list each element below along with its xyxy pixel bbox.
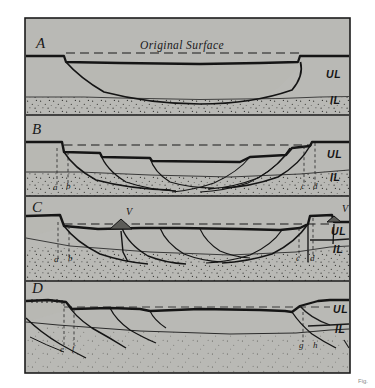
point-label-b-d: d [313, 181, 318, 191]
point-label-b-a: a [53, 182, 58, 192]
point-label-d-h: h [313, 340, 318, 350]
unit-label-ul-b: UL [327, 148, 342, 160]
unit-label-il-d: IL [335, 323, 346, 335]
cross-section-drawing: Original Surface A B C D UL IL UL IL UL … [0, 0, 375, 388]
panel-b-left-horst [26, 147, 68, 172]
panel-a-il-layer [26, 97, 349, 115]
panel-label-a: A [35, 35, 46, 51]
panel-label-d: D [31, 280, 43, 296]
point-label-c-d: d [310, 253, 315, 263]
point-label-d-g: g [299, 340, 304, 350]
figure-plate: Original Surface A B C D UL IL UL IL UL … [0, 0, 375, 388]
unit-label-il-a: IL [330, 94, 341, 106]
point-label-c-b: b [68, 253, 73, 263]
panel-label-c: C [32, 199, 43, 215]
point-label-c-a: a [54, 254, 59, 264]
point-label-b-b: b [66, 181, 71, 191]
point-label-b-c: c [301, 181, 305, 191]
unit-label-ul-d: UL [333, 303, 348, 315]
unit-label-ul-c: UL [331, 225, 346, 237]
unit-label-il-c: IL [333, 243, 344, 255]
panel-label-b: B [32, 121, 41, 137]
unit-label-ul-a: UL [326, 68, 341, 80]
caption-fragment: Fig. [358, 378, 368, 384]
original-surface-caption: Original Surface [140, 39, 224, 52]
point-label-d-e: e [60, 344, 64, 354]
point-label-c-c: c [296, 253, 300, 263]
unit-label-il-b: IL [330, 171, 341, 183]
